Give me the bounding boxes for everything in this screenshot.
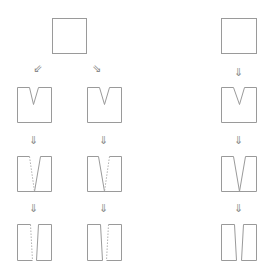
- arrow-down-right-icon: ⇘: [92, 62, 101, 75]
- middle-notched-shape: [88, 88, 122, 123]
- right-split-shape: [222, 225, 257, 261]
- arrow-down-left-icon: ⇙: [33, 62, 42, 75]
- arrow-down-icon: ⇓: [234, 66, 243, 79]
- left-cut-shape: [18, 157, 52, 192]
- arrow-down-icon: ⇓: [29, 202, 38, 215]
- arrow-down-icon: ⇓: [234, 134, 243, 147]
- top-square-left: [53, 19, 87, 54]
- diagram-canvas: ⇙ ⇘ ⇓ ⇓ ⇓ ⇓ ⇓ ⇓ ⇓: [0, 0, 269, 272]
- arrow-down-icon: ⇓: [99, 134, 108, 147]
- right-cut-shape: [222, 157, 257, 192]
- right-notched-shape: [222, 88, 257, 123]
- middle-cut-shape: [88, 157, 122, 192]
- middle-split-shape: [88, 225, 122, 261]
- left-notched-shape: [18, 88, 52, 123]
- left-split-shape: [18, 225, 52, 261]
- arrow-down-icon: ⇓: [234, 202, 243, 215]
- arrow-down-icon: ⇓: [99, 202, 108, 215]
- arrow-down-icon: ⇓: [29, 134, 38, 147]
- top-square-right: [222, 19, 257, 54]
